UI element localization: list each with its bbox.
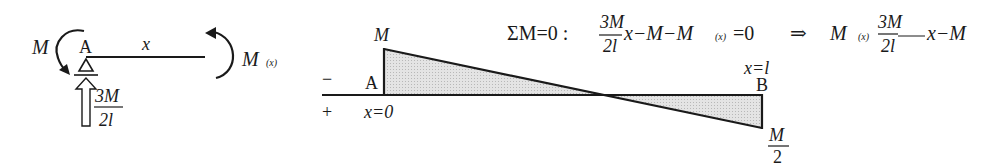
equilibrium-equation: ΣM=0 : 3M 2l x−M−M (x) =0 ⇒ M (x) 3M 2l … xyxy=(507,12,967,56)
equation-lead: ΣM=0 : xyxy=(507,22,568,44)
reaction-arrow-icon xyxy=(76,78,96,126)
result-fraction-numerator: 3M xyxy=(877,12,903,32)
end-value-denominator: 2 xyxy=(773,147,782,167)
free-body-diagram: M A x M (x) 3M 2l xyxy=(31,27,278,130)
result-lhs: M xyxy=(829,22,848,44)
moment-diagram: M − A + x=0 x=l B M 2 xyxy=(322,25,789,167)
pin-support-icon xyxy=(79,59,93,71)
moment-left-label: M xyxy=(31,36,50,58)
value-at-a-label: M xyxy=(373,25,390,45)
end-value-numerator: M xyxy=(768,125,785,145)
segment-x-label: x xyxy=(141,34,150,54)
equation-fraction-numerator: 3M xyxy=(599,12,625,32)
result-rest: x−M xyxy=(926,22,967,44)
implies-symbol: ⇒ xyxy=(790,22,807,44)
diagram-canvas: M A x M (x) 3M 2l M − A + x=0 x=l B M 2 … xyxy=(0,0,1008,167)
equation-terms: x−M−M xyxy=(623,22,695,44)
x-start-label: x=0 xyxy=(363,102,393,122)
diagram-point-a-label: A xyxy=(365,73,378,93)
arrowhead-right-icon xyxy=(205,27,216,39)
equation-subscript: (x) xyxy=(715,31,727,43)
result-subscript: (x) xyxy=(858,31,870,43)
point-a-label: A xyxy=(79,37,92,57)
point-b-label: B xyxy=(756,75,768,95)
reaction-numerator: 3M xyxy=(94,86,120,106)
equation-equals-zero: =0 xyxy=(733,22,754,44)
sign-plus-label: + xyxy=(322,102,332,122)
reaction-denominator: 2l xyxy=(99,110,113,130)
moment-arrow-right-icon xyxy=(214,32,233,78)
equation-fraction-denominator: 2l xyxy=(603,36,617,56)
sign-minus-label: − xyxy=(322,69,332,89)
moment-right-subscript: (x) xyxy=(266,57,278,69)
result-fraction-denominator: 2l xyxy=(881,36,895,56)
moment-right-label: M xyxy=(241,48,260,70)
